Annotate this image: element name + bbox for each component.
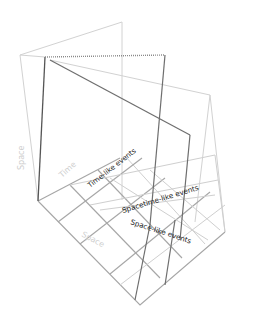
axis-label-time: Time (57, 160, 78, 181)
floor-grid (38, 156, 225, 305)
axis-label-space-floor: Space (80, 230, 106, 249)
axis-label-space-vertical: Space (17, 146, 26, 170)
spacetime-diagram: Space Time Space Time-like events Spacet… (0, 0, 256, 324)
label-space-like-events: Space-like events (129, 217, 192, 245)
